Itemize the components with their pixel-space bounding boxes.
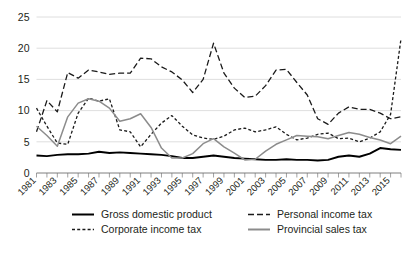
chart-legend: Gross domestic productPersonal income ta… [72,208,373,235]
x-axis-label: 2001 [223,175,246,198]
x-axis-label: 2005 [265,175,288,198]
x-axis-label: 2015 [369,175,392,198]
x-axis-label: 2003 [244,175,267,198]
legend-label: Provincial sales tax [277,223,368,235]
legend-label: Gross domestic product [101,208,212,220]
x-axis-label: 1989 [99,175,122,198]
chart-canvas: 0510152025 19811983198519871989199119931… [0,0,415,256]
series-line [37,39,402,147]
series-line [37,148,402,160]
x-axis-label: 2013 [348,175,371,198]
x-axis-label: 1997 [182,175,205,198]
y-axis-label: 25 [18,11,30,23]
legend-label: Personal income tax [277,208,373,220]
line-chart: 0510152025 19811983198519871989199119931… [0,0,415,256]
x-axis-label: 1985 [57,175,80,198]
y-axis-label: 10 [18,104,30,116]
y-axis-tick-labels: 0510152025 [18,11,30,179]
x-axis-label: 1991 [119,175,142,198]
y-axis-label: 5 [24,136,30,148]
y-axis-label: 20 [18,42,30,54]
x-axis-label: 2009 [307,175,330,198]
x-axis-label: 1995 [161,175,184,198]
x-axis-label: 2007 [286,175,309,198]
legend-label: Corporate income tax [101,223,202,235]
x-axis-label: 1981 [15,175,38,198]
x-axis-tick-labels: 1981198319851987198919911993199519971999… [15,175,392,198]
x-axis-label: 1983 [36,175,59,198]
x-axis-label: 2011 [328,175,350,197]
y-axis-label: 15 [18,73,30,85]
series-line [37,43,402,132]
data-series [37,39,402,161]
x-axis-label: 1999 [203,175,226,198]
x-axis-label: 1993 [140,175,163,198]
gridlines [37,17,402,142]
x-axis-label: 1987 [78,175,101,198]
